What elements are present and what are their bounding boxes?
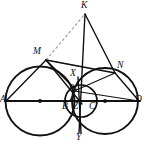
point-label-B: B xyxy=(62,102,68,112)
segment-PN xyxy=(74,73,115,91)
point-label-D: D xyxy=(135,95,142,105)
geometry-diagram-svg xyxy=(0,0,146,160)
point-label-Z: Z xyxy=(73,102,78,112)
point-label-K: K xyxy=(81,1,87,11)
segment-KN xyxy=(85,14,115,73)
point-label-A: A xyxy=(0,95,6,105)
dashed-construction-lines xyxy=(46,14,115,73)
geometry-figure: K M N X P A B Z C D Y xyxy=(0,0,146,160)
point-label-C: C xyxy=(89,102,95,112)
point-label-Y: Y xyxy=(76,133,81,143)
point-label-M: M xyxy=(33,47,41,57)
right-circle-center-dot xyxy=(103,99,107,103)
dashed-segment-MK xyxy=(46,14,85,60)
point-label-P: P xyxy=(69,83,74,92)
point-label-X: X xyxy=(70,69,76,79)
segment-MZ xyxy=(46,60,82,104)
segment-PD xyxy=(74,91,139,101)
point-label-N: N xyxy=(117,61,123,71)
left-circle-center-dot xyxy=(38,99,42,103)
